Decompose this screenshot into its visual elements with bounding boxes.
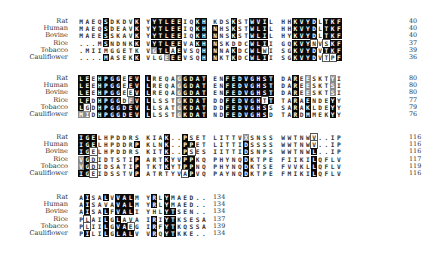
residue-segment: YYTLEEIQKH xyxy=(145,25,207,32)
residue: V xyxy=(134,75,140,82)
residue-segment: AISAVAVALM xyxy=(78,201,140,208)
residue: D xyxy=(268,111,274,118)
residue: H xyxy=(201,54,207,61)
residue: K xyxy=(134,47,140,54)
sequence-row: Cauliflower....MASEKKVLGEEEVSQHNKTKDCWLI… xyxy=(0,54,435,61)
residue-segment: VYTLEEVAKH xyxy=(145,40,207,47)
residue: K xyxy=(134,25,140,32)
residue-segment: MIDHPGGDEV xyxy=(78,111,140,118)
residue-segment: LITTIDSSSS xyxy=(212,141,274,148)
residue: P xyxy=(336,148,342,155)
residue-segment: LLSSTGKDAT xyxy=(145,111,207,118)
residue-segment: SARAKLDEYY xyxy=(280,104,342,111)
residue: F xyxy=(336,40,342,47)
residue: V xyxy=(134,111,140,118)
residue: T xyxy=(201,134,207,141)
residue: H xyxy=(201,32,207,39)
residue: K xyxy=(134,18,140,25)
residue-segment: IGELHPDDRS xyxy=(78,148,140,155)
residue-segment: KLNK..PPET xyxy=(145,141,207,148)
residue: K xyxy=(134,40,140,47)
residue: V xyxy=(134,97,140,104)
residue: L xyxy=(268,25,274,32)
residue-segment: TARDMMEKYY xyxy=(280,111,342,118)
residue: V xyxy=(336,156,342,163)
residue-segment: WWTNWV..IP xyxy=(280,134,342,141)
residue-segment: VRQYTKKE.. xyxy=(145,230,207,237)
residue-segment: KIAK..PSET xyxy=(145,134,207,141)
residue: Q xyxy=(201,163,207,170)
residue-segment: ....MASEKK xyxy=(78,54,140,61)
residue: M xyxy=(134,194,140,201)
position-number: 116 xyxy=(409,169,421,177)
residue-segment: TKTKYTPPNQ xyxy=(145,163,207,170)
residue: F xyxy=(336,47,342,54)
residue-segment: TARAENDEYY xyxy=(280,97,342,104)
position-number: 76 xyxy=(409,110,417,118)
residue: I xyxy=(268,40,274,47)
residue-segment: SGKVYDVTKF xyxy=(280,47,342,54)
residue: P xyxy=(134,170,140,177)
residue-segment: LEEHPGGEEV xyxy=(78,75,140,82)
residue: . xyxy=(201,194,207,201)
residue-segment: NHSKSTWLIL xyxy=(212,25,274,32)
residue-segment: GQKVYNVSKF xyxy=(280,40,342,47)
residue-segment: LITTVXSNSS xyxy=(212,134,274,141)
residue: I xyxy=(268,47,274,54)
residue-segment: HYKVYDLTKF xyxy=(280,32,342,39)
residue: K xyxy=(134,54,140,61)
residue-segment: HHKVYDLTKF xyxy=(280,25,342,32)
residue: I xyxy=(336,82,342,89)
residue: S xyxy=(134,134,140,141)
residue: T xyxy=(201,111,207,118)
residue: I xyxy=(336,75,342,82)
residue-segment: FIIKILQFLV xyxy=(280,156,342,163)
residue: V xyxy=(134,230,140,237)
residue-segment: HHKVYDLTKF xyxy=(280,18,342,25)
residue-segment: PILILGLALV xyxy=(78,230,140,237)
residue: Q xyxy=(201,170,207,177)
residue: G xyxy=(134,223,140,230)
residue: V xyxy=(134,89,140,96)
residue-segment: WWTNWV..IP xyxy=(280,141,342,148)
residue: P xyxy=(134,156,140,163)
residue-segment: PHYNQDKTPE xyxy=(212,156,274,163)
residue: E xyxy=(268,156,274,163)
residue-segment: FMIKILQFLV xyxy=(280,170,342,177)
residue-segment: LLSSTGKDAT xyxy=(145,97,207,104)
residue-segment: NNSKSTWLIL xyxy=(212,32,274,39)
residue-segment: LLSATGKDAT xyxy=(145,104,207,111)
residue-segment: LREQAGGDAT xyxy=(145,82,207,89)
position-number: 36 xyxy=(409,53,417,61)
residue: . xyxy=(201,208,207,215)
residue: V xyxy=(336,163,342,170)
residue: I xyxy=(268,54,274,61)
residue-segment: LFDHPGGDFV xyxy=(78,97,140,104)
residue-segment: ...MSNDNKK xyxy=(78,40,140,47)
residue-segment: DDFEDVGHSS xyxy=(212,104,274,111)
residue: S xyxy=(268,141,274,148)
residue-segment: ENFEDVGHST xyxy=(212,89,274,96)
species-label: Cauliflower xyxy=(29,229,68,237)
residue-segment: NNAKDCWLWI xyxy=(212,47,274,54)
residue: L xyxy=(268,18,274,25)
position-number: 134 xyxy=(213,229,225,237)
residue-segment: NKTKDCWLII xyxy=(212,54,274,61)
residue: H xyxy=(201,40,207,47)
residue: Y xyxy=(336,111,342,118)
residue-segment: DAREESKTSI xyxy=(280,89,342,96)
residue: T xyxy=(201,82,207,89)
sequence-alignment-figure: RatMAEQSDKDVKYYTLEEIQKHKDSKSTWVILHHKVYDL… xyxy=(0,0,435,253)
residue-segment: NDFEDVGHSD xyxy=(212,111,274,118)
residue-segment: VGDIDSATIP xyxy=(78,163,140,170)
residue-segment: LEEHPGGEEV xyxy=(78,82,140,89)
residue-segment: YRLYMAED.. xyxy=(145,194,207,201)
residue-segment: ATRTYVAPVQ xyxy=(145,170,207,177)
residue: . xyxy=(201,230,207,237)
residue: T xyxy=(201,97,207,104)
residue-segment: YYTLEEIQKH xyxy=(145,18,207,25)
residue-segment: YHLYTSEN.. xyxy=(145,208,207,215)
residue: T xyxy=(268,75,274,82)
residue-segment: PLIILGVAEG xyxy=(78,223,140,230)
residue: Y xyxy=(336,104,342,111)
